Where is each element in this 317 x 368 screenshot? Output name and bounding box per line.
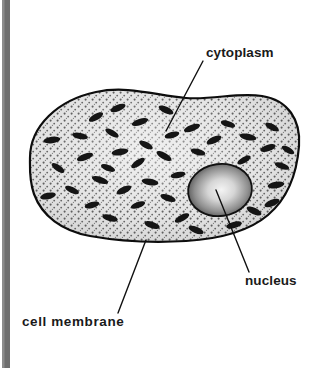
label-nucleus: nucleus: [245, 273, 297, 288]
label-cytoplasm: cytoplasm: [206, 45, 274, 60]
label-cell-membrane: cell membrane: [22, 314, 124, 329]
diagram-page: cytoplasm nucleus cell membrane: [0, 0, 317, 368]
page-edge-bar-highlight: [2, 0, 5, 368]
cell-diagram: cytoplasm nucleus cell membrane: [0, 0, 317, 368]
